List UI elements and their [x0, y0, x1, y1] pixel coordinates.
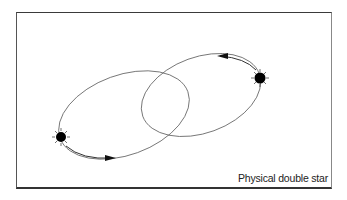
- right-orbit: [130, 38, 273, 152]
- double-star-diagram: [0, 0, 347, 200]
- arrow-right-icon: [105, 155, 116, 161]
- left-orbit: [46, 54, 201, 176]
- right-star-icon: [251, 69, 269, 87]
- diagram-caption: Physical double star: [238, 172, 328, 184]
- left-star-icon: [52, 128, 70, 146]
- diagram-canvas: Physical double star: [0, 0, 347, 200]
- arrow-left-icon: [217, 53, 228, 59]
